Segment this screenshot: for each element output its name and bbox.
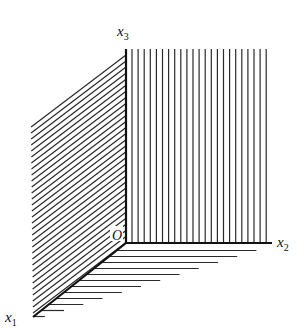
hatch-line [32,110,126,182]
hatch-line [31,73,126,145]
hatch-line [31,55,126,127]
hatch-line [32,128,126,199]
hatch-line [31,79,126,151]
coordinate-planes-diagram: O x3 x2 x1 [0,0,305,328]
hatch-line [31,67,126,139]
hatch-line [31,61,126,133]
hatch-line [32,116,126,188]
hatch-line [31,91,126,163]
x1-axis-label: x1 [4,309,17,328]
hatch-line [31,85,126,157]
hatch-line [32,97,127,169]
hatch-line [32,122,126,193]
x3-axis-label: x3 [116,23,129,42]
x2x3-plane-hatching [132,49,266,243]
x2-axis-label: x2 [276,234,289,253]
origin-label: O [112,228,122,243]
x1x2-plane-hatching [34,251,257,317]
hatch-line [32,103,126,175]
hatch-line [32,134,126,205]
